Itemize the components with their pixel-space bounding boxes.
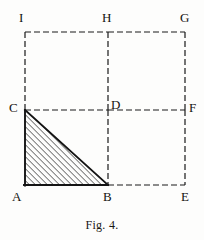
figure-caption: Fig. 4. bbox=[0, 218, 204, 233]
vertex-label-G: G bbox=[180, 11, 189, 24]
vertex-label-H: H bbox=[102, 11, 111, 24]
vertex-label-F: F bbox=[189, 101, 196, 114]
geometry-diagram bbox=[0, 0, 204, 240]
vertex-label-D: D bbox=[111, 98, 120, 111]
figure-container: I H G C D F A B E Fig. 4. bbox=[0, 0, 204, 240]
vertex-label-B: B bbox=[103, 190, 112, 203]
vertex-label-C: C bbox=[9, 101, 18, 114]
vertex-label-E: E bbox=[181, 190, 189, 203]
vertex-label-I: I bbox=[19, 11, 23, 24]
vertex-label-A: A bbox=[12, 190, 21, 203]
